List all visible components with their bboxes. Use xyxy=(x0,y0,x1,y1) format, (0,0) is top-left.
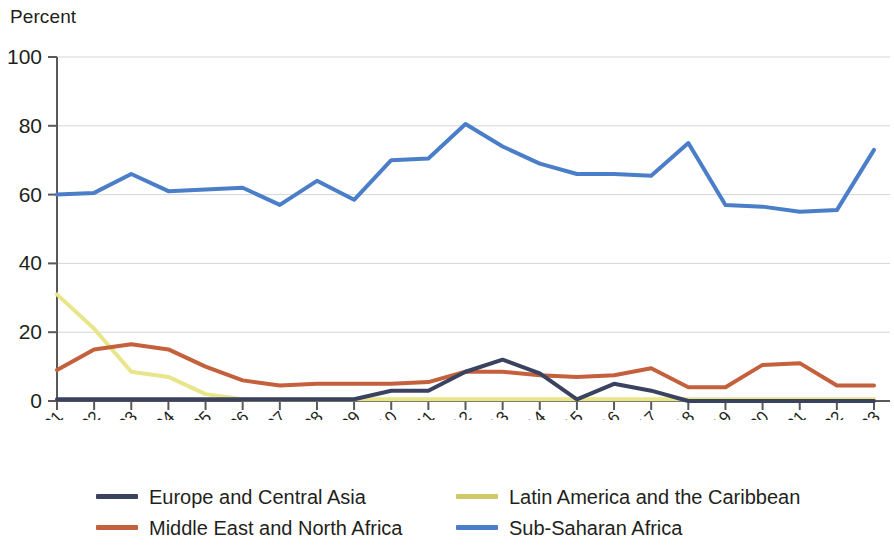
series-line xyxy=(57,124,874,212)
legend-color-swatch xyxy=(96,525,138,530)
legend-item[interactable]: Europe and Central Asia xyxy=(96,487,456,507)
axis-lines xyxy=(57,57,890,401)
legend-item[interactable]: Middle East and North Africa xyxy=(96,518,456,538)
y-tick-label: 40 xyxy=(19,251,42,274)
x-axis-labels: 2001200220032004200520062007200820092010… xyxy=(27,407,884,420)
series-line xyxy=(57,294,874,399)
x-tick-label: 2003 xyxy=(101,407,141,420)
x-tick-label: 2014 xyxy=(509,407,549,420)
y-tick-label: 0 xyxy=(30,389,42,412)
y-tick-label: 20 xyxy=(19,320,42,343)
gridlines xyxy=(57,57,890,401)
x-tick-label: 2019 xyxy=(695,407,735,420)
plot-svg: 020406080100 200120022003200420052006200… xyxy=(0,0,894,420)
x-tick-label: 2011 xyxy=(399,407,438,420)
x-tick-label: 2013 xyxy=(472,407,512,420)
legend-item-label: Latin America and the Caribbean xyxy=(509,487,800,507)
x-tick-label: 2010 xyxy=(361,407,401,420)
x-tick-label: 2018 xyxy=(658,407,698,420)
y-tick-label: 80 xyxy=(19,114,42,137)
x-tick-label: 2012 xyxy=(435,407,475,420)
x-tick-label: 2023 xyxy=(844,407,884,420)
x-tick-label: 2009 xyxy=(324,407,364,420)
x-tick-label: 2021 xyxy=(769,407,809,420)
x-tick-label: 2015 xyxy=(547,407,587,420)
x-tick-label: 2017 xyxy=(621,407,661,420)
x-tick-label: 2020 xyxy=(732,407,772,420)
legend-item[interactable]: Sub-Saharan Africa xyxy=(456,518,894,538)
x-tick-label: 2008 xyxy=(287,407,327,420)
plot-area: 020406080100 200120022003200420052006200… xyxy=(0,0,894,420)
chart-legend: Europe and Central AsiaLatin America and… xyxy=(0,481,894,545)
x-tick-label: 2004 xyxy=(138,407,178,420)
x-tick-label: 2022 xyxy=(807,407,847,420)
series-lines xyxy=(57,124,874,401)
legend-item-label: Sub-Saharan Africa xyxy=(509,518,682,538)
x-tick-label: 2002 xyxy=(64,407,104,420)
y-tick-label: 60 xyxy=(19,183,42,206)
x-tick-label: 2006 xyxy=(212,407,252,420)
x-tick-label: 2016 xyxy=(584,407,624,420)
legend-item-label: Europe and Central Asia xyxy=(149,487,366,507)
x-tick-label: 2007 xyxy=(249,407,289,420)
legend-color-swatch xyxy=(456,525,498,530)
legend-color-swatch xyxy=(96,494,138,499)
y-tick-label: 100 xyxy=(7,45,42,68)
x-tick-label: 2005 xyxy=(175,407,215,420)
line-chart: Percent 020406080100 2001200220032004200… xyxy=(0,0,894,545)
legend-item-label: Middle East and North Africa xyxy=(149,518,402,538)
y-axis-ticks: 020406080100 xyxy=(7,45,57,412)
legend-color-swatch xyxy=(456,494,498,499)
legend-item[interactable]: Latin America and the Caribbean xyxy=(456,487,894,507)
